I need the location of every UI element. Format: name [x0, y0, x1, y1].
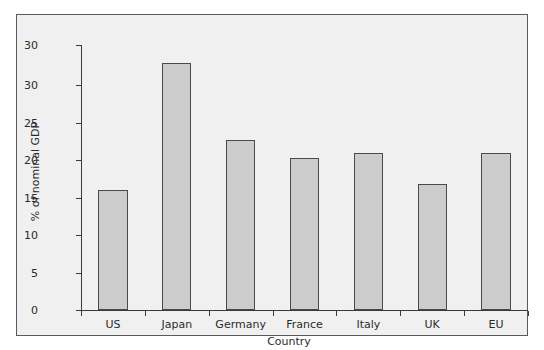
y-axis-spine [81, 45, 82, 311]
x-axis-title: Country [17, 335, 544, 348]
y-axis-title: % of nominal GDP [29, 92, 42, 252]
bar [418, 184, 447, 310]
y-axis-tick-label-top: 30 [0, 40, 38, 51]
y-axis-tick [76, 235, 81, 236]
x-axis-tick [145, 311, 146, 316]
y-axis-tick-top [76, 45, 81, 46]
bar [354, 153, 383, 311]
x-axis-tick [81, 311, 82, 316]
bar [162, 63, 191, 311]
x-axis-tick [528, 311, 529, 316]
x-axis-tick-label: US [105, 319, 120, 330]
x-axis-tick [464, 311, 465, 316]
x-axis-tick [336, 311, 337, 316]
x-axis-tick-label: Italy [356, 319, 380, 330]
bar [226, 140, 255, 310]
y-axis-tick [76, 273, 81, 274]
x-axis-tick-label: EU [489, 319, 504, 330]
y-axis-tick [76, 85, 81, 86]
bar [98, 190, 127, 310]
x-axis-tick-label: Japan [161, 319, 192, 330]
y-axis-tick-label: 0 [0, 305, 38, 316]
bar [481, 153, 510, 311]
x-axis-tick-label: UK [425, 319, 440, 330]
x-axis-tick [273, 311, 274, 316]
x-axis-tick-label: Germany [215, 319, 266, 330]
x-axis-spine [81, 310, 528, 311]
y-axis-tick [76, 160, 81, 161]
y-axis-tick-label: 5 [0, 268, 38, 279]
y-axis-tick [76, 198, 81, 199]
chart-panel: 05101520253030 USJapanGermanyFranceItaly… [16, 14, 528, 336]
y-axis-tick [76, 123, 81, 124]
bar-chart-figure: 05101520253030 USJapanGermanyFranceItaly… [0, 0, 544, 350]
x-axis-tick [400, 311, 401, 316]
bar [290, 158, 319, 310]
x-axis-tick-label: France [286, 319, 323, 330]
y-axis-tick-label: 30 [0, 80, 38, 91]
x-axis-tick [209, 311, 210, 316]
